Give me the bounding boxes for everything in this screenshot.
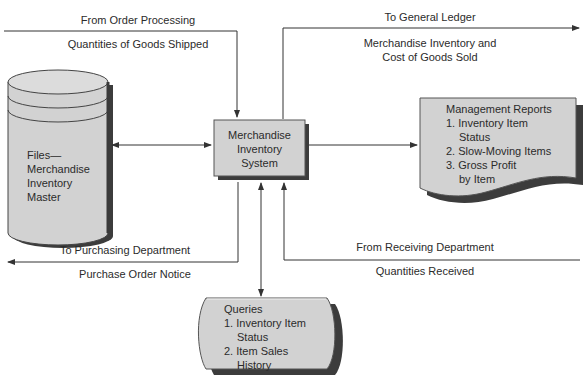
central-line-3: System bbox=[214, 156, 305, 170]
queries-title: Queries bbox=[224, 302, 306, 316]
label-from-order-processing: From Order Processing bbox=[38, 13, 238, 27]
reports-item-1-cont: Status bbox=[446, 130, 552, 144]
label-purchase-order-notice: Purchase Order Notice bbox=[50, 267, 220, 281]
central-line-2: Inventory bbox=[214, 142, 305, 156]
node-queries: Queries 1. Inventory Item Status 2. Item… bbox=[224, 302, 306, 372]
reports-item-1: 1. Inventory Item bbox=[446, 116, 552, 130]
label-quantities-goods-shipped: Quantities of Goods Shipped bbox=[38, 37, 238, 51]
queries-item-2-cont: History bbox=[224, 358, 306, 372]
queries-item-1-cont: Status bbox=[224, 330, 306, 344]
central-line-1: Merchandise bbox=[214, 128, 305, 142]
label-to-purchasing-department: To Purchasing Department bbox=[40, 243, 210, 257]
queries-item-2: 2. Item Sales bbox=[224, 344, 306, 358]
inventory-system-diagram: From Order Processing Quantities of Good… bbox=[0, 0, 583, 383]
label-to-general-ledger: To General Ledger bbox=[350, 10, 510, 24]
label-quantities-received: Quantities Received bbox=[340, 264, 510, 278]
node-management-reports: Management Reports 1. Inventory Item Sta… bbox=[446, 102, 552, 186]
reports-item-2: 2. Slow-Moving Items bbox=[446, 144, 552, 158]
files-line-2: Merchandise bbox=[27, 162, 90, 176]
node-merchandise-inventory-system: Merchandise Inventory System bbox=[214, 128, 305, 170]
label-cost-of-goods-sold: Cost of Goods Sold bbox=[350, 50, 510, 64]
queries-item-1: 1. Inventory Item bbox=[224, 316, 306, 330]
files-line-3: Inventory bbox=[27, 176, 90, 190]
reports-item-3-cont: by Item bbox=[446, 172, 552, 186]
files-line-4: Master bbox=[27, 190, 90, 204]
files-line-1: Files— bbox=[27, 148, 90, 162]
label-merchandise-inventory-and: Merchandise Inventory and bbox=[350, 36, 510, 50]
reports-title: Management Reports bbox=[446, 102, 552, 116]
label-from-receiving-department: From Receiving Department bbox=[340, 240, 510, 254]
reports-item-3: 3. Gross Profit bbox=[446, 158, 552, 172]
node-files-merchandise-inventory-master: Files— Merchandise Inventory Master bbox=[27, 148, 90, 204]
